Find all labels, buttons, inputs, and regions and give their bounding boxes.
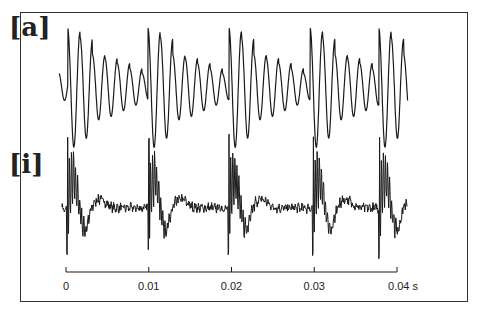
waveform-i: [62, 134, 407, 259]
waveform-a: [59, 28, 407, 147]
waveform-canvas: [0, 0, 489, 315]
tick-label: 0.03: [304, 280, 325, 292]
tick-label: 0.01: [138, 280, 159, 292]
tick-label: 0.02: [221, 280, 242, 292]
tick-label: 0: [63, 280, 69, 292]
time-axis: [66, 267, 397, 272]
tick-label: 0.04 s: [388, 280, 418, 292]
